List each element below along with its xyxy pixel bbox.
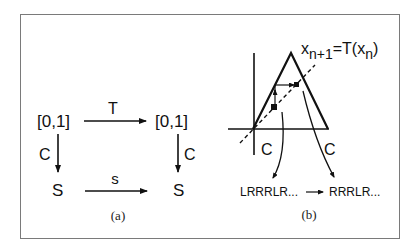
node-top-left: [0,1] [37, 112, 70, 131]
node-bottom-left: S [52, 181, 63, 200]
panel-a-commutative-diagram: [0,1] [0,1] S S T s C C (a) [37, 100, 196, 223]
sequence-after: RRRLR... [329, 185, 380, 199]
label-T: T [108, 100, 118, 117]
label-C-right-coding: C [324, 141, 336, 158]
label-s: s [111, 170, 119, 187]
label-C-left: C [39, 146, 51, 163]
node-bottom-right: S [173, 181, 184, 200]
point-xn [271, 104, 277, 110]
diagram-canvas: [0,1] [0,1] S S T s C C (a) xn+1=T(xn) [0, 0, 416, 250]
point-xn1 [294, 82, 299, 87]
coding-arrow-right [303, 91, 334, 177]
caption-b: (b) [301, 207, 316, 222]
sequence-before: LRRRLR... [240, 185, 298, 199]
node-top-right: [0,1] [155, 112, 188, 131]
equation-label: xn+1=T(xn) [301, 40, 378, 62]
label-C-left-coding: C [261, 141, 273, 158]
caption-a: (a) [111, 208, 125, 223]
label-C-right: C [184, 146, 196, 163]
panel-b-tent-map: xn+1=T(xn) C C LRRRLR... RRRLR... (b) [228, 40, 380, 222]
coding-arrow-left [273, 112, 283, 178]
